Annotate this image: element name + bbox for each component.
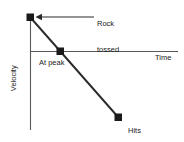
data-point-hits-ground: [115, 114, 123, 122]
annotation-at-peak: At peak: [39, 59, 64, 68]
diagram-canvas: Rock tossed At peak Hits ground Time Vel…: [0, 0, 184, 142]
velocity-time-plot: [0, 0, 184, 142]
annotation-hits-ground-line1: Hits: [128, 127, 151, 136]
y-axis-label: Velocity: [10, 54, 19, 102]
annotation-hits-ground: Hits ground: [128, 110, 151, 142]
annotation-rock-tossed-line1: Rock: [97, 20, 119, 29]
data-point-rock-tossed: [27, 14, 35, 22]
data-point-at-peak: [57, 48, 65, 56]
x-axis-label: Time: [155, 54, 171, 63]
annotation-rock-tossed: Rock tossed: [97, 3, 119, 71]
rock-tossed-arrow-head: [36, 14, 43, 20]
annotation-rock-tossed-line2: tossed: [97, 46, 119, 55]
